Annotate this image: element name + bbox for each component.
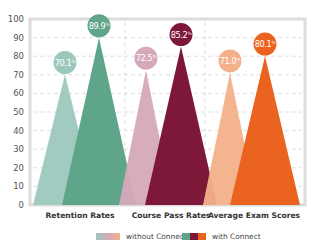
y-tick-label: 10 (13, 181, 24, 191)
legend-swatch-without-connect (96, 233, 120, 240)
y-tick-label: 40 (13, 126, 24, 136)
legend: without Connect with Connect (0, 232, 314, 244)
x-category-label: Course Pass Rates (132, 211, 211, 220)
legend-item-with-connect: with Connect (182, 232, 261, 241)
y-axis: 0102030405060708090100 (8, 14, 24, 210)
y-tick-label: 70 (13, 70, 24, 80)
y-tick-label: 60 (13, 88, 24, 98)
value-badges: 70.1%89.9%72.5%85.2%71.0%80.1% (54, 14, 277, 74)
legend-item-without-connect: without Connect (96, 232, 187, 241)
y-tick-label: 100 (8, 14, 24, 24)
y-tick-label: 0 (19, 200, 24, 210)
legend-swatch-with-connect (182, 233, 206, 240)
y-tick-label: 80 (13, 51, 24, 61)
y-tick-label: 50 (13, 107, 24, 117)
x-category-label: Retention Rates (46, 211, 115, 220)
x-axis-labels: Retention RatesCourse Pass RatesAverage … (46, 211, 301, 220)
y-tick-label: 90 (13, 33, 24, 43)
y-tick-label: 30 (13, 144, 24, 154)
legend-label-with-connect: with Connect (212, 232, 261, 241)
x-category-label: Average Exam Scores (208, 211, 301, 220)
legend-label-without-connect: without Connect (126, 232, 187, 241)
y-tick-label: 20 (13, 163, 24, 173)
chart-canvas: 0102030405060708090100 70.1%89.9%72.5%85… (0, 0, 314, 245)
